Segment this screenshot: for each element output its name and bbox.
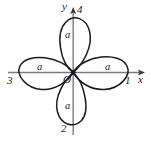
petal-label-top: a bbox=[65, 30, 70, 41]
petal-label-right: a bbox=[105, 62, 110, 73]
rose-curve-plot bbox=[0, 0, 151, 141]
petal-bottom bbox=[57, 73, 86, 125]
origin-label: O bbox=[63, 74, 71, 85]
petal-label-bottom: a bbox=[65, 101, 70, 112]
petal-label-left: a bbox=[37, 62, 42, 73]
y-axis-label: y bbox=[62, 1, 67, 12]
quadrant-label-3: 3 bbox=[7, 75, 13, 86]
x-axis-label: x bbox=[138, 74, 143, 85]
rose-curve-figure: y x O 4 1 3 2 a a a a bbox=[0, 0, 151, 141]
origin-point bbox=[71, 70, 76, 75]
quadrant-label-2: 2 bbox=[61, 123, 67, 134]
quadrant-label-1: 1 bbox=[125, 75, 131, 86]
quadrant-label-4: 4 bbox=[77, 4, 83, 15]
